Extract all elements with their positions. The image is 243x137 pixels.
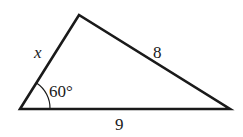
side-label-9: 9 bbox=[115, 115, 124, 134]
side-label-x: x bbox=[33, 43, 42, 62]
triangle-diagram: x 8 60° 9 bbox=[0, 0, 243, 137]
side-label-8: 8 bbox=[153, 43, 162, 62]
angle-label: 60° bbox=[49, 82, 73, 101]
angle-arc bbox=[37, 83, 51, 109]
